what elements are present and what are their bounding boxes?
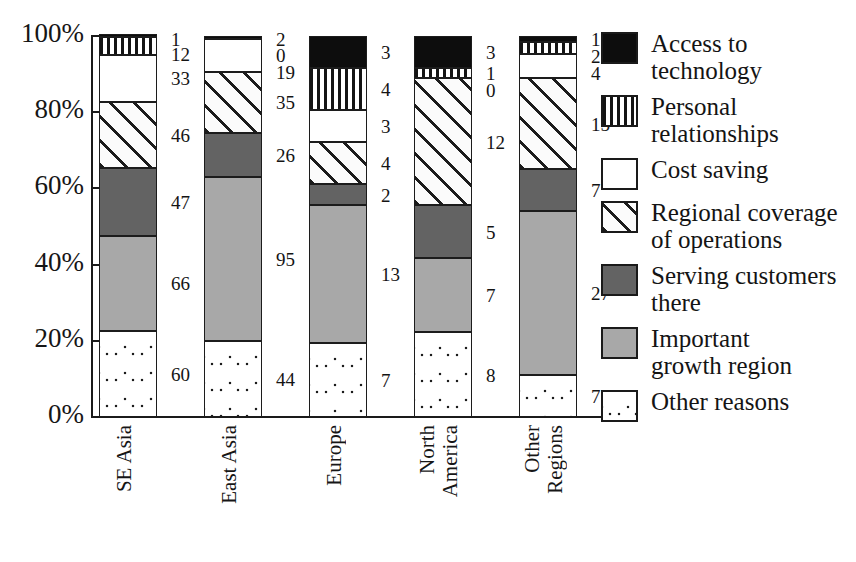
x-axis-label-line: North — [416, 425, 439, 474]
legend-swatch-icon — [601, 201, 638, 233]
x-axis-label-other-regions: OtherRegions — [521, 425, 567, 550]
bar-group-europe[interactable]: 71324343 — [309, 36, 409, 417]
bar-segment[interactable] — [414, 205, 472, 258]
legend-label: Serving customersthere — [651, 262, 836, 316]
plot-area: 6066474633121449526351902713243438751201… — [91, 36, 611, 417]
bar-segment[interactable] — [519, 211, 577, 374]
stacked-bar[interactable] — [99, 36, 157, 417]
segment-value-label: 12 — [486, 133, 505, 152]
segment-value-label: 1 — [486, 64, 496, 83]
segment-value-label: 3 — [381, 117, 391, 136]
segment-value-label: 1 — [591, 30, 601, 49]
legend-label: Other reasons — [651, 388, 789, 415]
legend-item[interactable]: Other reasons — [601, 388, 851, 422]
bar-segment[interactable] — [99, 37, 157, 54]
x-axis-label-line: Regions — [544, 425, 567, 494]
y-tick-label: 60% — [0, 172, 84, 199]
bar-segment[interactable] — [99, 55, 157, 102]
bar-segment[interactable] — [309, 205, 367, 343]
bar-segment[interactable] — [309, 184, 367, 205]
legend-swatch-icon — [601, 264, 638, 296]
bar-group-east-asia[interactable]: 449526351902 — [204, 36, 304, 417]
segment-value-label: 33 — [171, 69, 190, 88]
segment-value-label: 3 — [381, 43, 391, 62]
bar-segment[interactable] — [414, 68, 472, 79]
legend-item[interactable]: Personalrelationships — [601, 93, 851, 147]
x-axis-label-se-asia: SE Asia — [113, 425, 136, 550]
legend-swatch-icon — [601, 32, 638, 64]
legend-swatch-icon — [601, 390, 638, 422]
segment-value-label: 35 — [276, 93, 295, 112]
segment-value-label: 46 — [171, 126, 190, 145]
segment-value-label: 1 — [171, 30, 181, 49]
y-tick-text: 60% — [35, 172, 85, 199]
legend-label: Access totechnology — [651, 30, 762, 84]
y-tick-text: 100% — [21, 20, 84, 47]
bar-segment[interactable] — [414, 78, 472, 205]
legend-item[interactable]: Cost saving — [601, 156, 851, 190]
bar-segment[interactable] — [519, 42, 577, 54]
bar-segment[interactable] — [99, 331, 157, 417]
segment-value-label: 7 — [381, 371, 391, 390]
bar-segment[interactable] — [309, 36, 367, 68]
legend-item[interactable]: Importantgrowth region — [601, 325, 851, 379]
x-axis-label-line: East Asia — [218, 425, 241, 504]
legend-label: Regional coverageof operations — [651, 199, 838, 253]
legend-swatch-icon — [601, 158, 638, 190]
stacked-bar[interactable] — [414, 36, 472, 417]
y-tick-label: 20% — [0, 325, 84, 352]
bar-segment[interactable] — [519, 169, 577, 211]
segment-value-label: 5 — [486, 223, 496, 242]
segment-value-label: 3 — [486, 43, 496, 62]
bar-segment[interactable] — [414, 258, 472, 332]
bar-segment[interactable] — [204, 341, 262, 417]
segment-value-label: 66 — [171, 274, 190, 293]
x-axis-label-line: America — [439, 425, 462, 497]
legend-item[interactable]: Access totechnology — [601, 30, 851, 84]
x-axis-label-line: Other — [521, 425, 544, 473]
bar-segment[interactable] — [99, 102, 157, 168]
segment-value-label: 26 — [276, 146, 295, 165]
y-tick-label: 100% — [0, 20, 84, 47]
stacked-bar[interactable] — [204, 36, 262, 417]
x-axis-label-line: SE Asia — [113, 425, 136, 492]
bar-segment[interactable] — [414, 36, 472, 68]
bar-segment[interactable] — [519, 78, 577, 169]
bar-segment[interactable] — [204, 72, 262, 132]
bar-segment[interactable] — [309, 142, 367, 184]
bar-segment[interactable] — [204, 39, 262, 72]
bar-segment[interactable] — [309, 68, 367, 110]
bar-segment[interactable] — [414, 332, 472, 417]
legend-label: Personalrelationships — [651, 93, 779, 147]
y-tick-label: 80% — [0, 96, 84, 123]
segment-value-label: 4 — [381, 154, 391, 173]
bar-segment[interactable] — [519, 36, 577, 42]
legend-swatch-icon — [601, 327, 638, 359]
y-tick-text: 0% — [48, 401, 84, 428]
bar-group-north-america[interactable]: 87512013 — [414, 36, 514, 417]
bar-segment[interactable] — [309, 343, 367, 417]
x-axis-label-europe: Europe — [323, 425, 346, 550]
bar-segment[interactable] — [204, 36, 262, 39]
legend-label: Importantgrowth region — [651, 325, 792, 379]
bar-segment[interactable] — [519, 375, 577, 417]
bar-segment[interactable] — [99, 168, 157, 236]
segment-value-label: 2 — [276, 30, 286, 49]
bar-segment[interactable] — [519, 54, 577, 78]
bar-segment[interactable] — [99, 34, 157, 37]
stacked-bar-chart: 100%80%60%40%20%0% 606647463312144952635… — [0, 0, 856, 562]
segment-value-label: 13 — [381, 265, 400, 284]
stacked-bar[interactable] — [309, 36, 367, 417]
segment-value-label: 7 — [486, 286, 496, 305]
bar-segment[interactable] — [204, 133, 262, 178]
legend-item[interactable]: Serving customersthere — [601, 262, 851, 316]
chart-legend: Access totechnologyPersonalrelationships… — [601, 30, 851, 431]
bar-segment[interactable] — [99, 236, 157, 331]
bar-group-se-asia[interactable]: 6066474633121 — [99, 36, 199, 417]
bar-segment[interactable] — [309, 110, 367, 142]
segment-value-label: 47 — [171, 193, 190, 212]
legend-label: Cost saving — [651, 156, 768, 183]
legend-item[interactable]: Regional coverageof operations — [601, 199, 851, 253]
bar-segment[interactable] — [204, 177, 262, 341]
stacked-bar[interactable] — [519, 36, 577, 417]
